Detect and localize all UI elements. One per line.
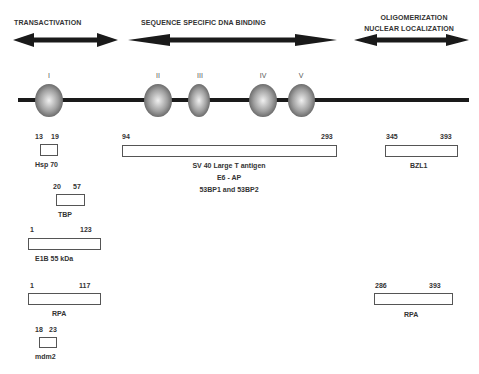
partner-label: RPA xyxy=(52,310,66,317)
region-label-iv: IV xyxy=(253,72,273,79)
end-residue: 393 xyxy=(429,282,441,289)
domain-label-dna-binding: SEQUENCE SPECIFIC DNA BINDING xyxy=(141,19,266,26)
binding-region-box xyxy=(28,293,101,305)
partner-label: RPA xyxy=(404,311,418,318)
end-residue: 123 xyxy=(80,226,92,233)
dna-binding-double-arrow-icon xyxy=(128,34,337,46)
binding-region-box xyxy=(56,194,85,206)
start-residue: 94 xyxy=(122,133,130,140)
end-residue: 23 xyxy=(49,326,57,333)
partner-label: mdm2 xyxy=(35,353,56,360)
binding-region-box xyxy=(385,145,458,157)
domain-label-transactivation: TRANSACTIVATION xyxy=(14,19,81,26)
partner-label: BZL1 xyxy=(410,162,428,169)
end-residue: 117 xyxy=(79,282,90,289)
binding-region-box xyxy=(122,145,337,157)
region-label-ii: II xyxy=(148,72,168,79)
domain-label-nuclear-localization: NUCLEAR LOCALIZATION xyxy=(349,25,469,32)
transactivation-double-arrow-icon xyxy=(13,33,118,47)
end-residue: 19 xyxy=(51,133,59,140)
start-residue: 286 xyxy=(375,282,387,289)
end-residue: 57 xyxy=(73,183,81,190)
start-residue: 18 xyxy=(35,326,43,333)
end-residue: 393 xyxy=(440,133,452,140)
start-residue: 1 xyxy=(30,226,34,233)
partner-label-e6ap: E6 - AP xyxy=(179,174,279,181)
partner-label: TBP xyxy=(58,211,72,218)
partner-label-sv40: SV 40 Large T antigen xyxy=(179,162,279,169)
conserved-region-sphere-i xyxy=(35,84,63,117)
region-label-i: I xyxy=(39,72,59,79)
domain-label-oligomerization: OLIGOMERIZATION xyxy=(364,14,464,21)
binding-region-box xyxy=(28,238,101,250)
conserved-region-sphere-iv xyxy=(249,84,277,117)
region-label-iii: III xyxy=(190,72,210,79)
binding-region-box xyxy=(39,337,57,348)
start-residue: 13 xyxy=(35,133,43,140)
start-residue: 345 xyxy=(386,133,398,140)
start-residue: 1 xyxy=(30,282,34,289)
conserved-region-sphere-iii xyxy=(188,84,210,117)
partner-label: Hsp 70 xyxy=(35,161,58,168)
binding-region-box xyxy=(40,144,58,156)
end-residue: 293 xyxy=(321,133,333,140)
start-residue: 20 xyxy=(53,183,61,190)
protein-backbone-line xyxy=(18,98,469,102)
binding-region-box xyxy=(374,293,453,305)
partner-label-53bp: 53BP1 and 53BP2 xyxy=(179,186,279,193)
conserved-region-sphere-ii xyxy=(144,84,172,117)
partner-label: E1B 55 kDa xyxy=(35,255,73,262)
region-label-v: V xyxy=(291,72,311,79)
conserved-region-sphere-v xyxy=(288,84,315,117)
oligomerization-double-arrow-icon xyxy=(354,34,469,46)
